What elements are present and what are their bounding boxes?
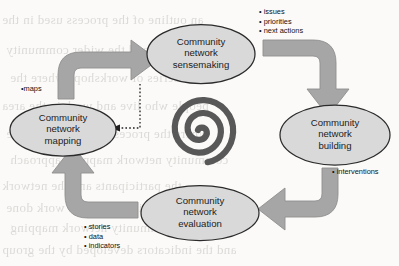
edge-label-maps: •maps [21,84,42,94]
cycle-diagram-svg [0,0,399,266]
bullet-glyph-icon: • [84,232,87,241]
edge-label-interventions-item-0: • interventions [332,167,379,177]
arrow-evaluation-to-mapping [52,146,138,218]
bullet-glyph-icon: • [332,167,335,176]
arrow-building-to-evaluation [258,168,338,230]
bullet-glyph-icon: • [84,222,87,231]
edge-label-evidence-item-1: • data [84,232,120,242]
edge-label-outputs-item-2: • next actions [259,26,303,36]
node-evaluation [141,186,259,241]
bullet-glyph-icon: • [259,7,262,16]
spiral-icon [175,100,233,162]
bullet-glyph-icon: • [84,241,87,250]
figure-canvas: an outline of the process used in thethe… [0,0,399,266]
bullet-glyph-icon: • [259,26,262,35]
edge-label-interventions: • interventions [332,167,379,177]
arrow-mapping-to-sensemaking [58,40,158,99]
edge-label-maps-item-0: •maps [21,84,42,94]
edge-label-evidence: • stories • data • indicators [84,222,120,251]
edge-label-evidence-item-2: • indicators [84,241,120,251]
edge-label-outputs-item-1: • priorities [259,17,303,27]
node-mapping [10,104,116,156]
edge-label-evidence-item-0: • stories [84,222,120,232]
bullet-glyph-icon: • [259,17,262,26]
arrow-feedback-dotted [118,84,140,128]
node-sensemaking [147,25,255,84]
node-building [280,105,390,165]
edge-label-outputs-item-0: • issues [259,7,303,17]
edge-label-outputs: • issues • priorities • next actions [259,7,303,36]
